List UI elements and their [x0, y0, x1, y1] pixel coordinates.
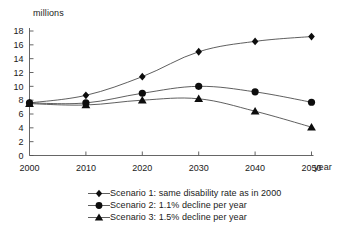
data-point-circle: [308, 99, 315, 106]
y-tick-label: 16: [13, 40, 23, 50]
y-tick-label: 12: [13, 68, 23, 78]
y-tick-label: 8: [18, 95, 23, 105]
series-line-3: [30, 98, 312, 127]
data-point-diamond: [195, 48, 202, 56]
legend-item[interactable]: Scenario 1: same disability rate as in 2…: [88, 188, 338, 199]
data-point-circle: [252, 88, 259, 95]
legend-item[interactable]: Scenario 2: 1.1% decline per year: [88, 200, 338, 211]
y-axis-tick-marks: [30, 31, 34, 156]
series-lines: [30, 37, 312, 128]
legend-item-label: Scenario 3: 1.5% decline per year: [110, 212, 247, 223]
y-tick-label: 6: [18, 109, 23, 119]
series-line-2: [30, 86, 312, 103]
x-axis-tick-marks: [86, 152, 312, 156]
x-tick-label: 2020: [132, 163, 152, 173]
chart-legend: Scenario 1: same disability rate as in 2…: [88, 188, 338, 224]
data-point-diamond: [83, 91, 90, 99]
data-point-diamond: [252, 37, 259, 45]
x-tick-label: 2000: [19, 163, 39, 173]
x-tick-label: 2010: [76, 163, 96, 173]
series-line-1: [30, 37, 312, 103]
legend-marker-circle-icon: [88, 200, 110, 211]
data-point-circle: [195, 83, 202, 90]
y-tick-label: 18: [13, 26, 23, 36]
y-tick-label: 4: [18, 123, 23, 133]
legend-item[interactable]: Scenario 3: 1.5% decline per year: [88, 212, 338, 223]
legend-item-label: Scenario 1: same disability rate as in 2…: [110, 188, 281, 199]
y-tick-label: 2: [18, 137, 23, 147]
y-axis-tick-labels: 024681012141618: [13, 26, 23, 161]
x-tick-label: 2030: [189, 163, 209, 173]
line-chart: millions year 024681012141618 2000201020…: [0, 0, 345, 228]
legend-marker-triangle-icon: [88, 212, 110, 223]
data-point-circle: [139, 90, 146, 97]
data-point-diamond: [308, 33, 315, 41]
legend-marker-diamond-icon: [88, 188, 110, 199]
y-tick-label: 14: [13, 54, 23, 64]
legend-item-label: Scenario 2: 1.1% decline per year: [110, 200, 247, 211]
y-tick-label: 0: [18, 151, 23, 161]
x-axis-tick-labels: 200020102020203020402050: [19, 163, 321, 173]
y-tick-label: 10: [13, 82, 23, 92]
data-point-diamond: [139, 73, 146, 81]
x-tick-label: 2050: [301, 163, 321, 173]
x-tick-label: 2040: [245, 163, 265, 173]
